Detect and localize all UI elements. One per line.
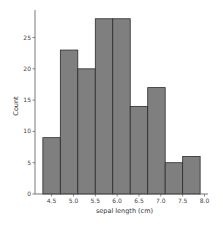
x-axis-label: sepal length (cm) — [96, 207, 153, 215]
histogram-bar — [148, 88, 165, 194]
y-tick-label: 0 — [27, 190, 31, 197]
histogram-bar — [95, 19, 112, 194]
y-axis-label: Count — [12, 96, 20, 116]
x-tick-label: 6.5 — [134, 197, 144, 204]
histogram-bar — [183, 156, 200, 194]
histogram-bar — [130, 106, 147, 194]
x-tick-label: 8.0 — [200, 197, 210, 204]
y-tick-label: 25 — [23, 34, 31, 41]
y-ticks-group: 0510152025 — [23, 34, 35, 197]
x-tick-label: 5.5 — [91, 197, 101, 204]
y-tick-label: 10 — [23, 127, 31, 134]
x-tick-label: 4.5 — [47, 197, 57, 204]
bars-group — [43, 19, 200, 194]
y-tick-label: 15 — [23, 96, 31, 103]
histogram-chart: 0510152025 4.55.05.56.06.57.07.58.0 sepa… — [0, 0, 223, 225]
x-tick-label: 6.0 — [112, 197, 122, 204]
y-tick-label: 5 — [27, 159, 31, 166]
histogram-bar — [113, 19, 130, 194]
histogram-bar — [165, 163, 182, 194]
x-tick-label: 5.0 — [69, 197, 79, 204]
histogram-bar — [43, 138, 60, 194]
histogram-bar — [78, 69, 95, 194]
x-tick-label: 7.0 — [156, 197, 166, 204]
x-tick-label: 7.5 — [178, 197, 188, 204]
y-tick-label: 20 — [23, 65, 31, 72]
histogram-bar — [60, 50, 77, 194]
x-ticks-group: 4.55.05.56.06.57.07.58.0 — [47, 194, 210, 204]
